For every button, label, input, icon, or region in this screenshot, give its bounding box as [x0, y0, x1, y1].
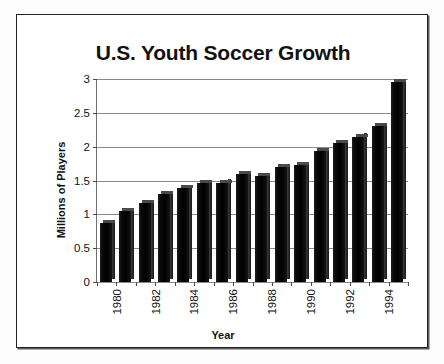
- bar-face: [197, 183, 209, 282]
- bar-series: [97, 79, 408, 282]
- bar: [139, 200, 151, 282]
- bar-face: [352, 137, 364, 282]
- bar-face: [100, 223, 112, 282]
- bar: [391, 79, 403, 282]
- bar-face: [314, 151, 326, 282]
- bar-side: [306, 162, 309, 279]
- bar-face: [158, 194, 170, 282]
- bar-side: [326, 148, 329, 279]
- y-tick-label: 2.5: [74, 107, 90, 119]
- bar-face: [177, 188, 189, 282]
- bar-top: [122, 208, 134, 211]
- x-tick-mark: [389, 282, 390, 286]
- x-tick-mark: [408, 282, 409, 286]
- bar-face: [294, 165, 306, 282]
- bar-side: [267, 173, 270, 279]
- bar-side: [170, 191, 173, 279]
- x-tick-mark: [330, 282, 331, 286]
- y-axis-title: Millions of Players: [55, 142, 67, 239]
- bar-top: [239, 171, 251, 174]
- bar-top: [142, 200, 154, 203]
- bar-top: [103, 220, 115, 223]
- x-tick-mark: [291, 282, 292, 286]
- y-tick-label: 3: [84, 73, 90, 85]
- chart-frame: U.S. Youth Soccer Growth Millions of Pla…: [16, 14, 428, 348]
- x-tick-label: 1984: [188, 289, 200, 315]
- bar-top: [317, 148, 329, 151]
- x-tick-label: 1986: [227, 289, 239, 315]
- bar-side: [209, 180, 212, 279]
- chart-title: U.S. Youth Soccer Growth: [17, 41, 429, 65]
- bar: [158, 191, 170, 282]
- bar: [236, 171, 248, 282]
- bar-top: [278, 164, 290, 167]
- bar-top: [356, 134, 368, 137]
- bar-face: [391, 82, 403, 282]
- bar-face: [275, 167, 287, 282]
- bar-side: [151, 200, 154, 279]
- bar: [314, 148, 326, 282]
- y-tick-label: 1: [84, 208, 90, 220]
- x-tick-mark: [233, 282, 234, 286]
- x-tick-mark: [175, 282, 176, 286]
- bar: [333, 140, 345, 282]
- bar-top: [336, 140, 348, 143]
- bar-top: [220, 180, 232, 183]
- bar: [177, 185, 189, 282]
- x-tick-mark: [194, 282, 195, 286]
- y-tick-label: 0.5: [74, 242, 90, 254]
- bar-side: [403, 79, 406, 279]
- bar-top: [394, 79, 406, 82]
- bar: [294, 162, 306, 282]
- bar-face: [333, 143, 345, 282]
- x-tick-label: 1994: [383, 289, 395, 315]
- bar-side: [112, 220, 115, 279]
- bar-face: [139, 203, 151, 282]
- bar: [197, 180, 209, 282]
- bar-top: [297, 162, 309, 165]
- bar-side: [131, 208, 134, 279]
- plot-area: 00.511.522.53 19801982198419861988199019…: [97, 79, 408, 282]
- x-tick-mark: [116, 282, 117, 286]
- x-tick-mark: [272, 282, 273, 286]
- bar-top: [375, 123, 387, 126]
- x-tick-label: 1982: [150, 289, 162, 315]
- bar: [255, 173, 267, 282]
- bar-face: [119, 211, 131, 282]
- x-tick-mark: [311, 282, 312, 286]
- bar: [275, 164, 287, 282]
- bar-side: [228, 179, 231, 278]
- chart-page: U.S. Youth Soccer Growth Millions of Pla…: [0, 0, 444, 364]
- bar-top: [181, 185, 193, 188]
- x-tick-label: 1990: [305, 289, 317, 315]
- bar-face: [372, 126, 384, 282]
- x-tick-mark: [214, 282, 215, 286]
- bar-face: [216, 183, 228, 282]
- bar-top: [258, 173, 270, 176]
- bar: [216, 179, 228, 282]
- bar: [100, 220, 112, 282]
- x-tick-mark: [253, 282, 254, 286]
- x-tick-label: 1980: [111, 289, 123, 315]
- bar-face: [255, 176, 267, 282]
- bar-top: [161, 191, 173, 194]
- bar: [372, 123, 384, 282]
- bar-side: [248, 171, 251, 279]
- y-tick-label: 2: [84, 141, 90, 153]
- bar: [352, 133, 364, 282]
- bar: [119, 208, 131, 282]
- x-tick-mark: [136, 282, 137, 286]
- y-tick-label: 1.5: [74, 175, 90, 187]
- x-tick-mark: [155, 282, 156, 286]
- bar-side: [345, 140, 348, 279]
- x-tick-mark: [369, 282, 370, 286]
- bar-side: [364, 133, 367, 278]
- x-tick-label: 1992: [344, 289, 356, 315]
- y-tick-label: 0: [84, 276, 90, 288]
- bar-face: [236, 174, 248, 282]
- x-tick-mark: [97, 282, 98, 286]
- x-tick-mark: [350, 282, 351, 286]
- bar-side: [189, 185, 192, 279]
- x-axis-title: Year: [17, 329, 429, 341]
- bar-top: [200, 180, 212, 183]
